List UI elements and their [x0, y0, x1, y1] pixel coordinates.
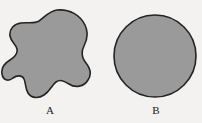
shapes-canvas [0, 0, 202, 123]
shape-b-circle [114, 15, 196, 97]
figure-container: A B [0, 0, 202, 123]
shape-a-blob [2, 10, 90, 98]
shape-a-label: A [40, 105, 60, 116]
shape-b-label: B [146, 105, 166, 116]
